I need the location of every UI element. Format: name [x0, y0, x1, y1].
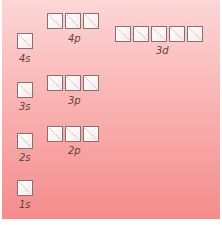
orbital-box [83, 13, 99, 29]
orbital-box [65, 126, 81, 142]
orbital-label-2s: 2s [19, 153, 31, 163]
orbital-label-1s: 1s [19, 200, 31, 210]
orbital-box [151, 26, 167, 42]
orbital-box [17, 33, 33, 49]
orbital-label-3d: 3d [156, 46, 169, 56]
orbital-1s-boxes [17, 180, 33, 196]
orbital-box [187, 26, 203, 42]
orbital-box [83, 75, 99, 91]
orbital-label-2p: 2p [68, 146, 81, 156]
orbital-2p-boxes [47, 126, 99, 142]
orbital-box [65, 13, 81, 29]
orbital-box [17, 133, 33, 149]
orbital-box [47, 75, 63, 91]
orbital-box [169, 26, 185, 42]
orbital-4p-boxes [47, 13, 99, 29]
orbital-label-3s: 3s [19, 102, 31, 112]
orbital-box [47, 13, 63, 29]
orbital-4s-boxes [17, 33, 33, 49]
orbital-3p-boxes [47, 75, 99, 91]
orbital-label-4p: 4p [68, 34, 81, 44]
orbital-box [115, 26, 131, 42]
orbital-diagram: 4p 3d 4s 3p 3s 2p 2s 1s [2, 0, 222, 222]
orbital-box [47, 126, 63, 142]
orbital-label-3p: 3p [68, 96, 81, 106]
orbital-label-4s: 4s [19, 54, 31, 64]
orbital-2s-boxes [17, 133, 33, 149]
orbital-box [17, 82, 33, 98]
orbital-box [83, 126, 99, 142]
orbital-box [65, 75, 81, 91]
orbital-3s-boxes [17, 82, 33, 98]
orbital-box [133, 26, 149, 42]
orbital-3d-boxes [115, 26, 203, 42]
orbital-box [17, 180, 33, 196]
